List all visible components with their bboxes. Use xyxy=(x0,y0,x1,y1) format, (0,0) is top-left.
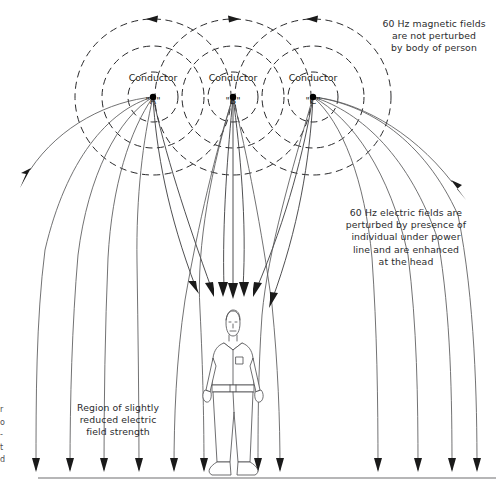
person-trousers xyxy=(213,392,253,462)
annotation-electric-fields: 60 Hz electric fields are perturbed by p… xyxy=(326,207,486,268)
margin-char-4: d xyxy=(0,454,9,467)
magnetic-direction-arrow-a xyxy=(146,16,158,23)
efield-arrow-to-person-left xyxy=(200,458,208,472)
power-line-field-diagram: Conductor "A" Conductor "B" Conductor "C… xyxy=(0,0,499,486)
efield-arrow-b-head-left xyxy=(218,282,228,297)
conductor-c-id: "C" xyxy=(305,95,320,106)
efield-arrow-c-right-4 xyxy=(473,458,481,472)
conductor-b-id: "B" xyxy=(225,95,240,106)
efield-arrow-a-left-4 xyxy=(135,458,143,472)
efield-line-c-right-3 xyxy=(313,97,452,470)
efield-arrow-c-right-3 xyxy=(448,458,456,472)
person-figure xyxy=(203,310,263,475)
person-belt xyxy=(212,385,254,392)
person-shoe-left xyxy=(209,462,231,475)
efield-arrow-c-head-2 xyxy=(269,292,278,308)
cropped-margin-text: r o - t d xyxy=(0,404,9,476)
person-hand-left xyxy=(203,390,211,402)
efield-line-c-right-4 xyxy=(313,97,477,470)
efield-line-to-person-right xyxy=(258,97,313,470)
efield-line-b-head-right xyxy=(233,97,244,288)
margin-char-2: - xyxy=(0,429,9,442)
efield-arrow-b-left-down xyxy=(170,458,178,472)
efield-arrow-c-head-1 xyxy=(253,282,262,297)
efield-arrow-b-head-right xyxy=(239,282,249,297)
margin-char-1: o xyxy=(0,417,9,430)
person-hand-right xyxy=(255,390,263,402)
efield-arrow-b-center xyxy=(228,283,238,299)
conductor-label-c: Conductor "C" xyxy=(268,61,358,106)
conductor-b-name: Conductor xyxy=(209,72,258,83)
efield-line-a-far-left xyxy=(30,97,153,170)
conductor-a-id: "A" xyxy=(145,95,160,106)
annotation-magnetic-fields: 60 Hz magnetic fields are not perturbed … xyxy=(370,18,498,55)
efield-arrow-c-right-1 xyxy=(374,458,382,472)
efield-arrow-a-head-2 xyxy=(205,282,214,297)
efield-arrow-a-left-3 xyxy=(100,458,108,472)
margin-char-3: t xyxy=(0,442,9,455)
person-shoe-right xyxy=(237,462,258,475)
efield-line-c-right-2 xyxy=(313,97,418,470)
efield-arrow-c-right-2 xyxy=(414,458,422,472)
efield-line-a-head-2 xyxy=(153,97,212,290)
efield-arrow-a-left-2 xyxy=(66,458,74,472)
conductor-a-name: Conductor xyxy=(129,72,178,83)
person-head xyxy=(226,311,240,336)
conductor-label-b: Conductor "B" xyxy=(188,61,278,106)
efield-arrow-b-right-down xyxy=(276,458,284,472)
conductor-c-name: Conductor xyxy=(289,72,338,83)
margin-char-0: r xyxy=(0,404,9,417)
magnetic-direction-arrow-c xyxy=(306,16,318,23)
annotation-reduced-field-region: Region of slightly reduced electric fiel… xyxy=(62,402,174,439)
efield-arrow-a-head-1 xyxy=(188,281,199,294)
conductor-label-a: Conductor "A" xyxy=(108,61,198,106)
efield-arrow-a-left-1 xyxy=(32,458,40,472)
efield-arrow-a-far-left xyxy=(20,168,31,188)
efield-arrow-c-far-right xyxy=(451,180,466,200)
magnetic-direction-arrow-b xyxy=(228,16,240,23)
